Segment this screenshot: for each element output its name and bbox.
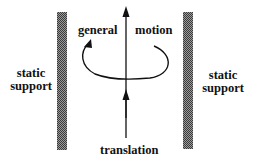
- left-static-support: [57, 12, 67, 150]
- right-static-support: [183, 12, 193, 149]
- rotation-arrowhead-icon: [84, 39, 92, 48]
- general-label: general: [78, 24, 118, 37]
- left-support-label-line2: support: [8, 80, 54, 93]
- right-support-label: static support: [198, 69, 248, 95]
- right-support-label-line2: support: [198, 82, 248, 95]
- motion-axis-arrowhead-icon: [123, 6, 130, 17]
- translation-label: translation: [100, 144, 158, 157]
- motion-label: motion: [135, 24, 173, 37]
- translation-arrowhead-icon: [123, 89, 130, 100]
- left-support-label: static support: [8, 67, 54, 93]
